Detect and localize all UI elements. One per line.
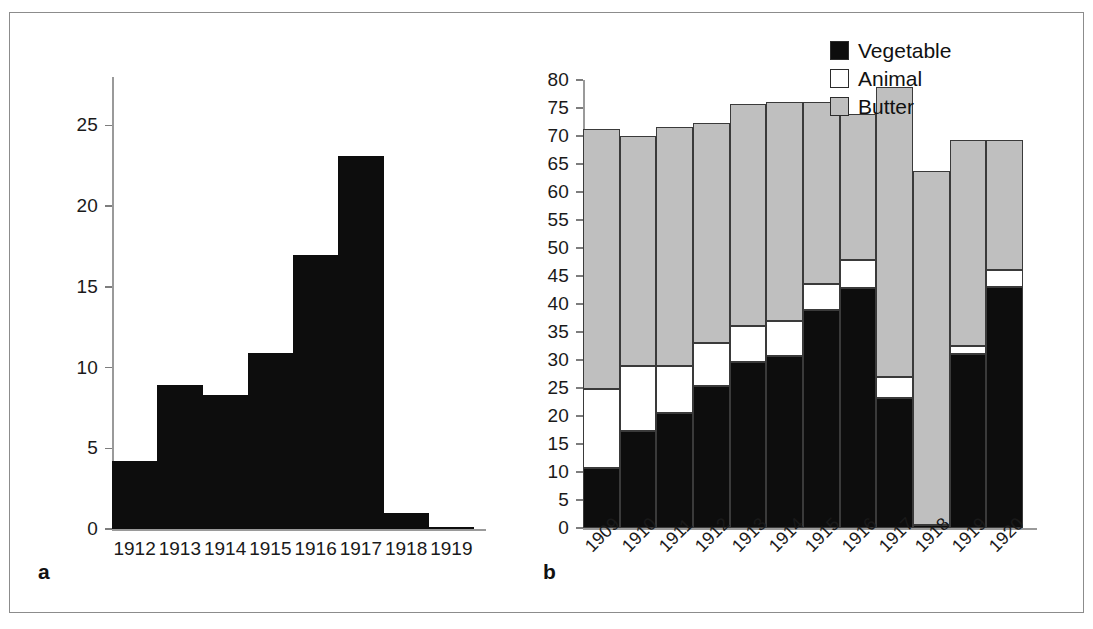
bar-segment <box>583 389 620 468</box>
panel-a-x-tick-label: 1912 <box>112 539 157 558</box>
table-row <box>876 87 913 528</box>
bar-segment <box>730 104 767 327</box>
bar-segment <box>840 260 877 288</box>
bar-segment <box>766 356 803 528</box>
panel-b-y-tick <box>576 163 583 165</box>
panel-b-y-tick-label: 15 <box>523 434 569 453</box>
bar-segment <box>876 398 913 528</box>
panel-b-y-tick <box>576 415 583 417</box>
table-row <box>766 102 803 528</box>
panel-b-y-tick <box>576 527 583 529</box>
panel-b-y-tick <box>576 135 583 137</box>
panel-b-y-tick-label: 35 <box>523 322 569 341</box>
panel-a-y-tick <box>105 125 112 127</box>
panel-b-y-tick <box>576 191 583 193</box>
panel-a-label: a <box>38 560 50 584</box>
bar-segment <box>766 102 803 320</box>
bar <box>429 527 474 529</box>
panel-a-y-tick-label: 5 <box>50 438 98 457</box>
table-row <box>693 123 730 528</box>
panel-a-y-tick <box>105 528 112 530</box>
panel-b-y-tick-label: 40 <box>523 294 569 313</box>
empty-white-square-icon <box>830 69 849 88</box>
panel-b-y-tick-label: 30 <box>523 350 569 369</box>
bar-segment <box>656 366 693 413</box>
filled-gray-square-icon <box>830 97 849 116</box>
bar <box>293 255 338 529</box>
panel-b-y-tick <box>576 331 583 333</box>
panel-b-y-tick-label: 70 <box>523 126 569 145</box>
table-row <box>986 140 1023 528</box>
panel-a-x-tick-label: 1918 <box>384 539 429 558</box>
panel-b-y-tick-label: 80 <box>523 70 569 89</box>
bar-segment <box>840 288 877 528</box>
bar-segment <box>656 413 693 528</box>
bar-segment <box>986 270 1023 287</box>
panel-b-plot-area: 0510152025303540455055606570758019091910… <box>583 80 1023 528</box>
panel-a-x-axis <box>112 529 486 531</box>
panel-b-y-tick <box>576 107 583 109</box>
table-row <box>950 140 987 528</box>
panel-a-x-tick-label: 1915 <box>248 539 293 558</box>
bar-segment <box>913 171 950 525</box>
bar <box>157 385 202 529</box>
table-row <box>803 102 840 528</box>
table-row <box>730 104 767 528</box>
bar <box>384 513 429 529</box>
panel-b-y-tick <box>576 219 583 221</box>
bar <box>338 156 383 529</box>
panel-a-x-tick-label: 1916 <box>293 539 338 558</box>
bar-segment <box>876 87 913 378</box>
table-row <box>656 127 693 528</box>
legend-item: Animal <box>830 66 951 90</box>
panel-b-y-tick-label: 65 <box>523 154 569 173</box>
panel-b-y-tick <box>576 499 583 501</box>
bar-segment <box>950 140 987 346</box>
panel-b-y-tick-label: 5 <box>523 490 569 509</box>
bar-segment <box>876 377 913 398</box>
panel-b-label: b <box>543 560 556 584</box>
bar-segment <box>950 354 987 528</box>
figure-root: a 05101520251912191319141915191619171918… <box>0 0 1093 629</box>
bar-segment <box>730 362 767 528</box>
panel-a-y-tick <box>105 448 112 450</box>
bar-segment <box>730 326 767 362</box>
bar <box>112 461 157 529</box>
bar <box>203 395 248 529</box>
panel-b-y-tick-label: 75 <box>523 98 569 117</box>
panel-a-y-tick <box>105 367 112 369</box>
panel-b-y-tick <box>576 359 583 361</box>
table-row <box>840 114 877 528</box>
panel-a-x-tick-label: 1914 <box>203 539 248 558</box>
panel-a-x-tick-label: 1917 <box>338 539 383 558</box>
bar <box>248 353 293 529</box>
panel-b-y-tick <box>576 275 583 277</box>
chart-legend: VegetableAnimalButter <box>830 38 951 122</box>
panel-a-x-tick-label: 1919 <box>429 539 474 558</box>
bar-segment <box>620 366 657 431</box>
bar-segment <box>803 310 840 528</box>
bar-segment <box>840 114 877 261</box>
bar-segment <box>583 129 620 389</box>
panel-b-y-tick <box>576 471 583 473</box>
bar-segment <box>766 321 803 356</box>
table-row <box>913 171 950 528</box>
bar-segment <box>803 284 840 310</box>
panel-b-y-tick-label: 20 <box>523 406 569 425</box>
bar-segment <box>986 287 1023 528</box>
bar-segment <box>656 127 693 366</box>
panel-b-y-tick <box>576 443 583 445</box>
legend-item: Vegetable <box>830 38 951 62</box>
legend-item-label: Butter <box>858 96 914 117</box>
table-row <box>583 129 620 528</box>
filled-black-square-icon <box>830 41 849 60</box>
legend-item-label: Vegetable <box>858 40 951 61</box>
bar-segment <box>620 431 657 528</box>
panel-a-y-tick-label: 20 <box>50 196 98 215</box>
panel-b-y-tick <box>576 303 583 305</box>
panel-a-y-tick-label: 10 <box>50 358 98 377</box>
panel-b-y-tick-label: 0 <box>523 518 569 537</box>
panel-b: b 05101520253035404550556065707580190919… <box>520 0 1093 629</box>
bar-segment <box>986 140 1023 270</box>
panel-a-y-tick-label: 15 <box>50 277 98 296</box>
